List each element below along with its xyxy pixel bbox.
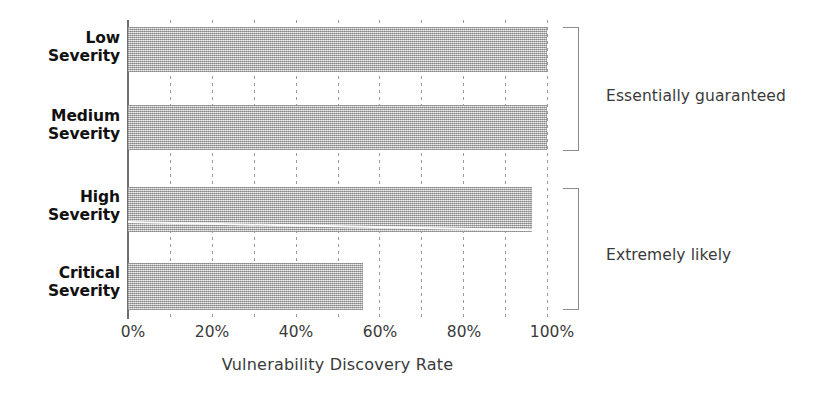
category-label-line2: Severity	[2, 47, 120, 65]
x-tick-label-0: 0%	[121, 323, 146, 341]
bar-low-severity	[128, 27, 547, 72]
bracket-essentially-guaranteed	[563, 27, 579, 151]
category-label-line1: Low	[2, 29, 120, 47]
x-tick-label-40: 40%	[279, 323, 313, 341]
category-label-low-severity: Low Severity	[2, 29, 120, 65]
x-tick-label-60: 60%	[363, 323, 397, 341]
bar-medium-severity	[128, 105, 547, 150]
annotation-essentially-guaranteed: Essentially guaranteed	[606, 87, 786, 105]
category-label-line1: Medium	[2, 107, 120, 125]
category-label-high-severity: High Severity	[2, 188, 120, 224]
category-label-medium-severity: Medium Severity	[2, 107, 120, 143]
gridline-100	[547, 20, 548, 318]
y-axis-category-labels: Low Severity Medium Severity High Severi…	[0, 0, 120, 394]
category-label-line2: Severity	[2, 282, 120, 300]
bar-critical-severity	[128, 263, 363, 310]
category-label-line2: Severity	[2, 125, 120, 143]
annotation-extremely-likely: Extremely likely	[606, 246, 731, 264]
vulnerability-discovery-rate-chart: Low Severity Medium Severity High Severi…	[0, 0, 835, 394]
category-label-line2: Severity	[2, 206, 120, 224]
plot-area	[128, 20, 547, 318]
x-tick-label-80: 80%	[447, 323, 481, 341]
bracket-extremely-likely	[563, 188, 579, 310]
x-tick-label-100: 100%	[530, 323, 574, 341]
category-label-line1: High	[2, 188, 120, 206]
bar-high-severity	[128, 187, 532, 232]
category-label-critical-severity: Critical Severity	[2, 264, 120, 300]
x-axis-title: Vulnerability Discovery Rate	[128, 355, 547, 374]
category-label-line1: Critical	[2, 264, 120, 282]
x-tick-label-20: 20%	[195, 323, 229, 341]
